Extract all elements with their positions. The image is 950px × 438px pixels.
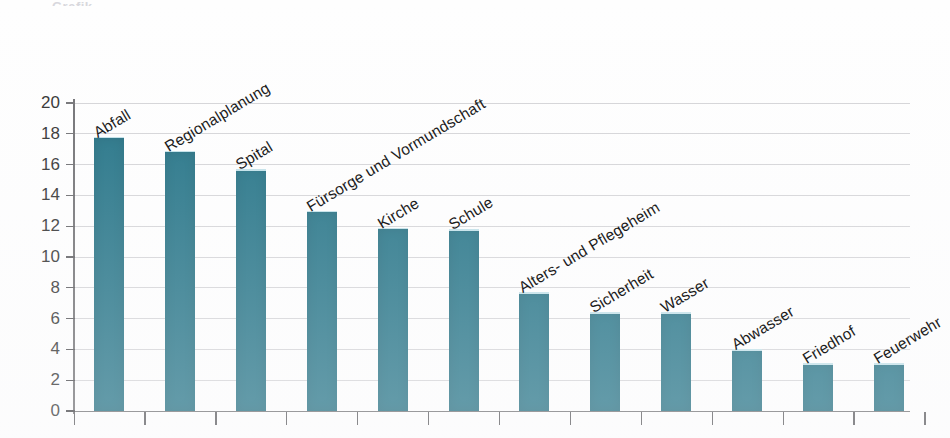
y-tick-2 [66,380,75,381]
bar [519,292,549,411]
gridline-0 [74,411,910,413]
x-tick [499,412,500,425]
x-tick [144,412,145,425]
gridline-8 [74,287,910,288]
bar [803,363,833,411]
bar [236,169,266,411]
x-tick [286,412,287,425]
y-axis-tick-label: 6 [2,310,60,327]
y-axis-tick-label: 12 [2,217,60,234]
y-tick-8 [66,287,75,288]
gridline-10 [74,257,910,258]
gridline-16 [74,164,910,165]
y-axis-tick-label: 0 [2,402,60,419]
y-tick-18 [66,133,75,134]
bar-chart: Grafik 02468101214161820 AbfallRegionalp… [0,0,950,438]
x-tick [641,412,642,425]
y-tick-4 [66,349,75,350]
y-tick-10 [66,256,75,257]
y-tick-6 [66,318,75,319]
bar [94,137,124,411]
gridline-20 [74,103,910,104]
bar [732,349,762,411]
bar [590,312,620,411]
x-tick [853,412,854,425]
x-tick [712,412,713,425]
gridline-4 [74,349,910,350]
bar [449,229,479,411]
bar [307,211,337,411]
bar [378,228,408,411]
y-tick-14 [66,195,75,196]
y-axis-tick-label: 2 [2,371,60,388]
x-tick [215,412,216,425]
y-axis-tick-label: 16 [2,156,60,173]
bar [661,312,691,411]
bar [165,151,195,411]
y-axis-tick-label: 10 [2,248,60,265]
y-tick-16 [66,164,75,165]
x-tick [570,412,571,425]
gridline-12 [74,226,910,227]
gridline-2 [74,380,910,381]
y-axis-tick-label: 14 [2,186,60,203]
x-tick [924,412,925,425]
y-axis-tick-label: 20 [2,94,60,111]
y-axis-tick-label: 18 [2,125,60,142]
y-tick-20 [66,102,75,103]
x-tick [74,412,75,425]
y-axis-labels: 02468101214161820 [0,0,60,438]
x-tick [357,412,358,425]
y-axis-tick-label: 4 [2,340,60,357]
y-axis-tick-label: 8 [2,279,60,296]
x-tick [783,412,784,425]
gridline-14 [74,195,910,196]
cropped-title-sliver: Grafik [52,0,292,6]
plot-area [74,103,910,411]
x-tick [428,412,429,425]
y-tick-12 [66,226,75,227]
bar [874,363,904,411]
